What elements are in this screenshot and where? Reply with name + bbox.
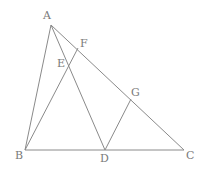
segment-ad bbox=[51, 25, 105, 150]
labels-group: ABCDEFG bbox=[15, 9, 194, 165]
point-label-c: C bbox=[186, 149, 194, 162]
segments-group bbox=[25, 25, 184, 150]
segment-bf bbox=[25, 48, 78, 150]
segment-ac bbox=[51, 25, 184, 150]
point-label-b: B bbox=[15, 149, 23, 162]
point-label-a: A bbox=[42, 9, 52, 22]
point-label-g: G bbox=[131, 86, 140, 99]
point-label-e: E bbox=[57, 57, 65, 70]
segment-ab bbox=[25, 25, 51, 150]
point-label-d: D bbox=[100, 152, 109, 165]
point-label-f: F bbox=[80, 37, 88, 50]
triangle-diagram: ABCDEFG bbox=[0, 0, 204, 174]
segment-dg bbox=[105, 99, 131, 150]
